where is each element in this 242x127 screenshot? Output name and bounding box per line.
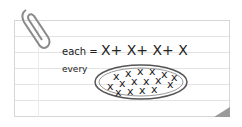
each-label: each = [62,46,98,57]
svg-text:x: x [115,86,122,99]
circled-group-icon: xxxxxx xxxxxx xxxx [93,63,189,101]
paperclip-icon [18,6,52,50]
equation-expression: X+ X+ X+ X [101,42,188,58]
svg-text:x: x [151,83,158,96]
svg-text:x: x [127,85,134,98]
every-label: every [62,64,87,74]
svg-text:x: x [139,84,146,97]
svg-text:x: x [107,80,114,93]
equation-line: each = X+ X+ X+ X [62,42,188,58]
page-curl-icon [214,107,230,117]
svg-text:x: x [167,78,174,91]
